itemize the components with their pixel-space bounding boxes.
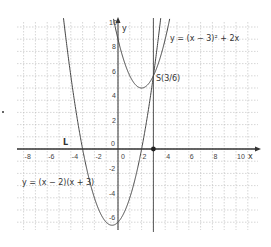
x-axis-label: x: [248, 152, 253, 161]
x-tick-label: -4: [72, 153, 78, 160]
y-tick-label: -2: [109, 165, 115, 172]
x-tick-label: 0: [121, 153, 125, 160]
y-tick-label: 2: [112, 117, 116, 124]
y-tick-label: 8: [112, 43, 116, 50]
origin-label: 0: [111, 140, 115, 147]
intersection-label: S(3/6): [156, 74, 180, 83]
points: [151, 147, 156, 152]
y-tick-label: 6: [112, 68, 116, 75]
x-tick-label: -6: [48, 153, 54, 160]
x-tick-label: 8: [213, 153, 217, 160]
x-tick-label: -2: [95, 153, 101, 160]
x-tick-label: 6: [190, 153, 194, 160]
y-tick-label: -4: [109, 190, 115, 197]
x-tick-label: 10: [237, 153, 245, 160]
x-tick-label: 4: [166, 153, 170, 160]
y-tick-label: 4: [112, 92, 116, 99]
curve1-label: y = (x − 3)² + 2x: [170, 34, 239, 43]
x-tick-label: 2: [143, 153, 147, 160]
y-tick-label: 10: [109, 19, 117, 26]
stray-mark: [2, 111, 4, 113]
y-tick-label: -6: [109, 214, 115, 221]
line-label: L: [63, 138, 68, 147]
grid-lines: [17, 22, 258, 230]
x-tick-label: -8: [25, 153, 31, 160]
y-axis-label: y: [122, 24, 127, 33]
curve2-label: y = (x − 2)(x + 3): [22, 178, 94, 187]
